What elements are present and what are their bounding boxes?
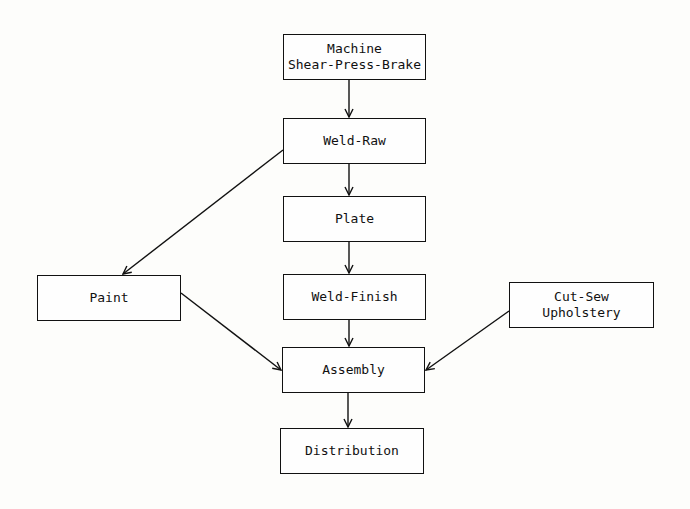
node-weld-raw: Weld-Raw [283,118,426,164]
node-weld-finish: Weld-Finish [283,274,426,320]
edge-cutsew-assembly [426,311,509,370]
node-assembly: Assembly [282,347,425,393]
node-label: Upholstery [542,305,620,321]
node-cut-sew-upholstery: Cut-Sew Upholstery [509,282,654,328]
node-distribution: Distribution [280,428,424,474]
edge-paint-assembly [181,293,281,370]
node-label: Plate [335,211,374,227]
node-label: Cut-Sew [554,289,609,305]
node-label: Shear-Press-Brake [288,57,421,73]
node-machine: Machine Shear-Press-Brake [283,34,426,80]
node-label: Weld-Finish [311,289,397,305]
node-label: Machine [327,41,382,57]
edge-weldraw-paint [123,150,283,274]
node-plate: Plate [283,196,426,242]
node-label: Paint [89,290,128,306]
node-label: Distribution [305,443,399,459]
node-label: Weld-Raw [323,133,386,149]
node-paint: Paint [37,275,181,321]
node-label: Assembly [322,362,385,378]
